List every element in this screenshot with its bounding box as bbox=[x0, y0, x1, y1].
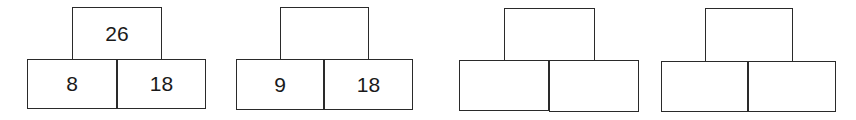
pyramid-4-top-cell bbox=[705, 8, 793, 62]
pyramid-1-bottom-right-cell: 18 bbox=[117, 59, 206, 109]
pyramid-2-top-cell bbox=[280, 7, 369, 60]
pyramid-3-top-cell bbox=[504, 8, 595, 61]
pyramid-1-top-cell: 26 bbox=[72, 7, 162, 60]
pyramid-3-bottom-right-cell bbox=[549, 60, 639, 112]
pyramid-4-bottom-right-cell bbox=[748, 61, 836, 112]
pyramid-2-bottom-right-cell: 18 bbox=[324, 59, 413, 110]
pyramid-1-bottom-left-cell: 8 bbox=[27, 59, 117, 109]
pyramid-3-bottom-left-cell bbox=[459, 60, 549, 111]
pyramid-4-bottom-left-cell bbox=[661, 61, 748, 112]
pyramid-2-bottom-left-cell: 9 bbox=[236, 59, 324, 110]
